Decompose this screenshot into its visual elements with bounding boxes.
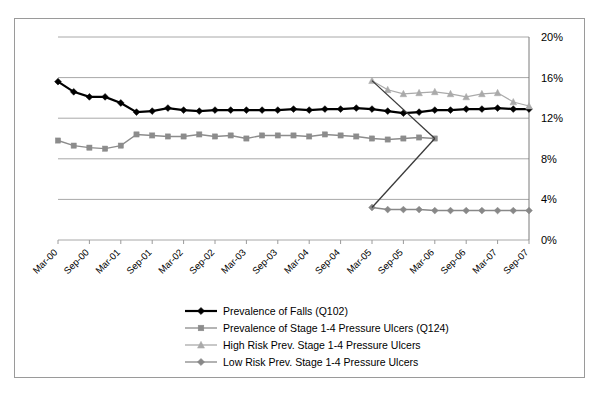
data-point bbox=[86, 93, 93, 100]
data-point bbox=[353, 105, 360, 112]
chart-page: 0%4%8%12%16%20% Mar-00Sep-00Mar-01Sep-01… bbox=[0, 0, 608, 395]
data-point bbox=[354, 134, 359, 139]
data-point bbox=[447, 107, 454, 114]
x-tick-label: Sep-03 bbox=[250, 247, 279, 276]
legend-label: Prevalence of Falls (Q102) bbox=[223, 305, 348, 317]
data-point bbox=[526, 207, 533, 214]
data-point bbox=[510, 98, 517, 104]
data-point bbox=[212, 107, 219, 114]
data-point bbox=[149, 108, 156, 115]
data-point bbox=[463, 207, 470, 214]
chart-legend: Prevalence of Falls (Q102)Prevalence of … bbox=[185, 305, 449, 368]
x-tick-label: Mar-00 bbox=[30, 247, 59, 276]
data-point bbox=[431, 207, 438, 214]
x-tick-label: Sep-01 bbox=[124, 247, 153, 276]
data-point bbox=[118, 143, 123, 148]
x-tick-label: Mar-04 bbox=[282, 247, 311, 276]
data-point bbox=[71, 143, 76, 148]
legend-marker bbox=[198, 325, 204, 331]
x-tick-label: Sep-02 bbox=[187, 247, 216, 276]
x-tick-label: Mar-02 bbox=[156, 247, 185, 276]
x-tick-label: Mar-06 bbox=[407, 247, 436, 276]
data-point bbox=[384, 108, 391, 115]
data-point bbox=[384, 206, 391, 213]
y-tick-label: 20% bbox=[541, 31, 563, 43]
data-point bbox=[165, 105, 172, 112]
legend-item[interactable]: Low Risk Prev. Stage 1-4 Pressure Ulcers bbox=[185, 356, 418, 368]
legend-item[interactable]: Prevalence of Falls (Q102) bbox=[185, 305, 348, 317]
data-point bbox=[510, 207, 517, 214]
data-point bbox=[259, 107, 266, 114]
data-point bbox=[307, 134, 312, 139]
series-1 bbox=[55, 132, 437, 151]
data-point bbox=[494, 207, 501, 214]
data-point bbox=[275, 133, 280, 138]
data-point bbox=[102, 93, 109, 100]
data-point bbox=[196, 108, 203, 115]
data-point bbox=[244, 136, 249, 141]
data-point bbox=[338, 133, 343, 138]
y-tick-label: 4% bbox=[541, 193, 557, 205]
y-tick-label: 0% bbox=[541, 234, 557, 246]
series-2 bbox=[369, 77, 533, 109]
data-point bbox=[87, 145, 92, 150]
data-point bbox=[322, 106, 329, 113]
series-3 bbox=[369, 204, 533, 214]
x-tick-label: Sep-07 bbox=[501, 247, 530, 276]
x-axis-labels: Mar-00Sep-00Mar-01Sep-01Mar-02Sep-02Mar-… bbox=[30, 247, 530, 276]
data-point bbox=[243, 107, 250, 114]
y-tick-label: 8% bbox=[541, 153, 557, 165]
x-tick-label: Mar-07 bbox=[470, 247, 499, 276]
data-point bbox=[400, 206, 407, 213]
data-point bbox=[416, 109, 423, 116]
y-tick-label: 16% bbox=[541, 72, 563, 84]
data-point bbox=[291, 133, 296, 138]
data-point bbox=[417, 135, 422, 140]
data-point bbox=[431, 107, 438, 114]
data-point bbox=[322, 132, 327, 137]
data-point bbox=[290, 106, 297, 113]
data-point bbox=[55, 138, 60, 143]
gridlines-group bbox=[58, 37, 529, 240]
data-point bbox=[463, 106, 470, 113]
data-point bbox=[306, 107, 313, 114]
data-point bbox=[228, 133, 233, 138]
data-point bbox=[479, 207, 486, 214]
data-point bbox=[510, 106, 517, 113]
data-series-layer bbox=[55, 77, 533, 214]
legend-label: High Risk Prev. Stage 1-4 Pressure Ulcer… bbox=[223, 339, 421, 351]
data-point bbox=[227, 107, 234, 114]
data-point bbox=[400, 110, 407, 117]
series-transition-connector bbox=[372, 139, 435, 208]
legend-item[interactable]: High Risk Prev. Stage 1-4 Pressure Ulcer… bbox=[185, 339, 421, 351]
y-axis-labels: 0%4%8%12%16%20% bbox=[541, 31, 563, 246]
x-tick-label: Mar-05 bbox=[344, 247, 373, 276]
data-point bbox=[134, 132, 139, 137]
legend-marker bbox=[197, 358, 204, 365]
data-point bbox=[337, 106, 344, 113]
data-point bbox=[180, 107, 187, 114]
x-tick-label: Sep-00 bbox=[61, 247, 90, 276]
data-point bbox=[212, 134, 217, 139]
x-tick-label: Sep-05 bbox=[375, 247, 404, 276]
legend-label: Prevalence of Stage 1-4 Pressure Ulcers … bbox=[223, 322, 449, 334]
series-0 bbox=[55, 78, 533, 116]
data-point bbox=[447, 207, 454, 214]
x-tick-label: Sep-06 bbox=[438, 247, 467, 276]
data-point bbox=[479, 106, 486, 113]
data-point bbox=[401, 136, 406, 141]
data-point bbox=[385, 137, 390, 142]
x-tick-label: Mar-01 bbox=[93, 247, 122, 276]
y-tick-label: 12% bbox=[541, 112, 563, 124]
data-point bbox=[165, 134, 170, 139]
data-point bbox=[369, 106, 376, 113]
data-point bbox=[494, 105, 501, 112]
data-point bbox=[384, 86, 391, 92]
x-tick-label: Mar-03 bbox=[219, 247, 248, 276]
x-axis-ticks bbox=[58, 240, 529, 244]
data-point bbox=[181, 134, 186, 139]
data-point bbox=[416, 206, 423, 213]
x-tick-label: Sep-04 bbox=[313, 247, 342, 276]
data-point bbox=[197, 132, 202, 137]
legend-item[interactable]: Prevalence of Stage 1-4 Pressure Ulcers … bbox=[185, 322, 449, 334]
